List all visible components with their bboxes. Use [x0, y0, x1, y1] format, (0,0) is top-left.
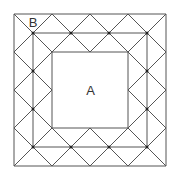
vertex-dot: [32, 108, 35, 111]
vertex-dot: [108, 146, 111, 149]
vertex-dot: [146, 108, 149, 111]
diagonal-line: [14, 128, 33, 147]
label-a: A: [86, 83, 95, 98]
diagonal-line: [147, 33, 166, 52]
label-b: B: [29, 15, 38, 30]
diagonal-line: [147, 128, 166, 147]
vertex-dot: [32, 70, 35, 73]
diagonal-line: [14, 33, 33, 52]
vertex-dot: [32, 146, 35, 149]
geometric-square-pattern: A B: [0, 0, 179, 171]
vertex-dot: [146, 70, 149, 73]
diagonal-line: [33, 147, 52, 166]
vertex-dot: [70, 32, 73, 35]
vertex-dot: [32, 32, 35, 35]
diagonal-line: [128, 14, 147, 33]
vertex-dot: [146, 32, 149, 35]
vertex-dot: [70, 146, 73, 149]
diagonal-line: [128, 147, 147, 166]
vertex-dot: [146, 146, 149, 149]
vertex-dot: [108, 32, 111, 35]
